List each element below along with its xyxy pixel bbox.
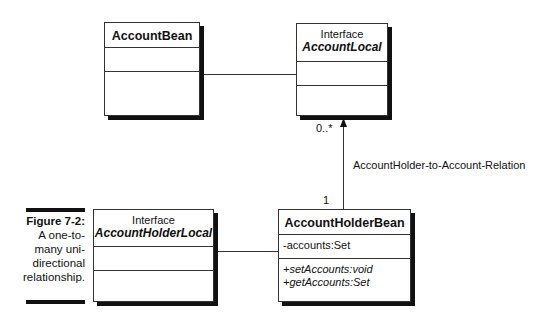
stereotype-label: Interface: [297, 28, 387, 40]
connector-accountbean-accountlocal: [203, 74, 296, 75]
caption-line: relationship.: [10, 270, 85, 284]
operations-section: [297, 85, 387, 86]
caption-line: A one-to-: [10, 228, 85, 242]
figure-number: Figure 7-2:: [10, 214, 85, 228]
operation: +setAccounts:void: [283, 263, 373, 276]
class-name: AccountLocal: [297, 40, 387, 54]
class-name: AccountHolderLocal: [94, 226, 213, 240]
caption-line: directional: [10, 256, 85, 270]
stereotype-label: Interface: [94, 214, 213, 226]
source-multiplicity: 1: [323, 194, 329, 206]
attributes-section: [297, 61, 387, 62]
interface-account-local[interactable]: Interface AccountLocal: [296, 23, 388, 116]
association-label: AccountHolder-to-Account-Relation: [353, 159, 525, 171]
class-name: AccountHolderBean: [279, 216, 410, 230]
operations-section: [105, 71, 199, 72]
caption-top-bar: [26, 208, 85, 212]
attributes-section: [94, 246, 213, 247]
class-account-holder-bean[interactable]: AccountHolderBean -accounts:Set +setAcco…: [278, 209, 411, 302]
target-multiplicity: 0..*: [316, 122, 333, 134]
operation: +getAccounts:Set: [283, 276, 370, 289]
operations-section: [279, 258, 410, 259]
attribute: -accounts:Set: [283, 239, 350, 251]
attributes-section: [105, 47, 199, 48]
connector-holderlocal-holderbean: [217, 251, 278, 252]
class-account-bean[interactable]: AccountBean: [104, 22, 200, 116]
figure-caption: Figure 7-2: A one-to- many uni- directio…: [10, 214, 85, 284]
caption-line: many uni-: [10, 242, 85, 256]
operations-section: [94, 270, 213, 271]
attributes-section: [279, 234, 410, 235]
association-line: [343, 125, 344, 209]
interface-account-holder-local[interactable]: Interface AccountHolderLocal: [93, 209, 214, 302]
caption-bottom-bar: [26, 300, 85, 304]
class-name: AccountBean: [105, 29, 199, 43]
arrowhead-icon: [339, 118, 348, 128]
